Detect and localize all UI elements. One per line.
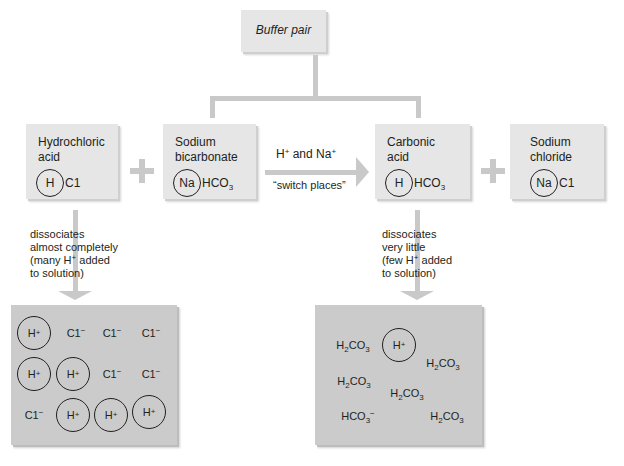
sodium-chloride-box: Sodium chloride Na C1 xyxy=(510,124,604,199)
nahco3-name-line2: bicarbonate xyxy=(175,150,238,165)
hcl-formula: H C1 xyxy=(36,169,80,197)
exchange-label-bottom: “switch places” xyxy=(273,179,346,192)
exchange-arrow-head-icon xyxy=(356,157,369,187)
hcl-name-line2: acid xyxy=(38,150,105,165)
right-dissociation-note: dissociates very little (few H+ added to… xyxy=(382,228,452,280)
h2co3-formula: H HCO3 xyxy=(385,169,445,197)
exchange-label-top: H+ and Na+ xyxy=(276,148,336,161)
nahco3-label: Sodium bicarbonate xyxy=(175,135,238,165)
buffer-pair-title: Buffer pair xyxy=(241,23,326,37)
sodium-circle: Na xyxy=(173,169,201,197)
buffer-pair-box: Buffer pair xyxy=(241,10,326,52)
chloride-ion: C1− xyxy=(103,327,122,339)
hydrogen-ion: H+ xyxy=(17,316,51,350)
bicarbonate-symbol: HCO3 xyxy=(414,176,445,190)
connector-right-drop xyxy=(416,96,421,118)
h2co3-name-line2: acid xyxy=(387,150,435,165)
connector-horizontal xyxy=(210,96,421,101)
nahco3-name-line1: Sodium xyxy=(175,135,238,150)
left-dissociation-note: dissociates almost completely (many H+ a… xyxy=(30,228,118,280)
h2co3-solution-box: H2CO3 H+ H2CO3 H2CO3 H2CO3 HCO3− H2CO3 xyxy=(315,305,482,445)
carbonic-acid-molecule: H2CO3 xyxy=(336,339,369,351)
nacl-name-line1: Sodium xyxy=(530,135,572,150)
plus-icon xyxy=(481,159,505,183)
connector-vertical-top xyxy=(313,55,318,98)
exchange-arrow-shaft xyxy=(265,170,356,175)
chloride-ion: C1− xyxy=(67,327,86,339)
chloride-ion: C1− xyxy=(25,409,44,421)
carbonic-acid-molecule: H2CO3 xyxy=(337,375,370,387)
hcl-label: Hydrochloric acid xyxy=(38,135,105,165)
plus-icon xyxy=(130,159,154,183)
carbonic-acid-molecule: H2CO3 xyxy=(430,410,463,422)
sodium-bicarbonate-box: Sodium bicarbonate Na HCO3 xyxy=(163,124,256,199)
hydrogen-ion: H+ xyxy=(56,357,90,391)
chloride-ion: C1− xyxy=(142,368,161,380)
hydrogen-circle: H xyxy=(36,169,64,197)
hydrogen-ion: H+ xyxy=(17,357,51,391)
hcl-solution-box: H+ C1− C1− C1− H+ H+ C1− C1− C1− H+ H+ H… xyxy=(11,305,177,445)
left-down-arrow-head-icon xyxy=(58,291,92,300)
h2co3-name-line1: Carbonic xyxy=(387,135,435,150)
hydrogen-circle: H xyxy=(385,169,413,197)
right-down-arrow-head-icon xyxy=(400,291,434,300)
chlorine-symbol: C1 xyxy=(65,176,80,190)
nacl-formula: Na C1 xyxy=(530,169,574,197)
nacl-name-line2: chloride xyxy=(530,150,572,165)
h2co3-label: Carbonic acid xyxy=(387,135,435,165)
chloride-ion: C1− xyxy=(142,327,161,339)
chloride-ion: C1− xyxy=(103,368,122,380)
hydrogen-ion: H+ xyxy=(132,395,166,429)
hydrogen-ion: H+ xyxy=(56,398,90,432)
bicarbonate-ion: HCO3− xyxy=(341,410,375,422)
hydrogen-ion: H+ xyxy=(94,398,128,432)
nahco3-formula: Na HCO3 xyxy=(173,169,233,197)
carbonic-acid-molecule: H2CO3 xyxy=(426,357,459,369)
hydrogen-ion: H+ xyxy=(382,328,416,362)
hcl-name-line1: Hydrochloric xyxy=(38,135,105,150)
chlorine-symbol: C1 xyxy=(559,176,574,190)
carbonic-acid-molecule: H2CO3 xyxy=(390,387,423,399)
connector-left-drop xyxy=(210,96,215,118)
bicarbonate-symbol: HCO3 xyxy=(202,176,233,190)
hydrochloric-acid-box: Hydrochloric acid H C1 xyxy=(26,124,118,199)
nacl-label: Sodium chloride xyxy=(530,135,572,165)
carbonic-acid-box: Carbonic acid H HCO3 xyxy=(375,124,470,199)
sodium-circle: Na xyxy=(530,169,558,197)
